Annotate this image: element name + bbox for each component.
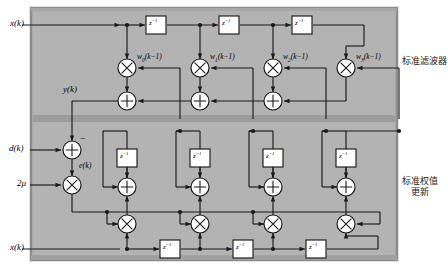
section-label-weight-update: 标准权值 更新 (402, 176, 438, 198)
section-label-weight-update-line1: 标准权值 (402, 176, 438, 187)
label-d: d(k) (9, 144, 24, 153)
delay-glyph-top-0: z−1 (149, 19, 157, 27)
section-label-weight-update-line2: 更新 (402, 187, 438, 198)
weight-label-3-text: w3(k−1) (356, 52, 381, 61)
block-diagram-svg (0, 0, 448, 275)
delay-glyph-bot-0: z−1 (163, 243, 171, 251)
delay-glyph-bot-2: z−1 (309, 243, 317, 251)
weight-label-1: w1(k−1) (210, 53, 235, 63)
weight-label-2-text: w2(k−1) (283, 52, 308, 61)
delay-glyph-w-2: z−1 (266, 152, 274, 160)
label-x-bottom: x(k) (10, 243, 24, 252)
delay-glyph-bot-1: z−1 (236, 243, 244, 251)
label-y: y(k) (63, 85, 77, 94)
mu-multiplier-node (63, 176, 81, 194)
minus-sign: − (80, 134, 86, 144)
weight-label-2: w2(k−1) (283, 53, 308, 63)
label-x-top: x(k) (10, 19, 24, 28)
delay-glyph-top-2: z−1 (295, 19, 303, 27)
weight-label-0: w0(k−1) (137, 53, 162, 63)
error-summer-node (63, 141, 81, 159)
section-divider (33, 115, 395, 122)
weight-label-1-text: w1(k−1) (210, 52, 235, 61)
weight-label-3: w3(k−1) (356, 53, 381, 63)
delay-glyph-w-3: z−1 (339, 152, 347, 160)
delay-glyph-w-0: z−1 (120, 152, 128, 160)
delay-glyph-top-1: z−1 (222, 19, 230, 27)
label-e: e(k) (79, 162, 91, 170)
delay-glyph-w-1: z−1 (193, 152, 201, 160)
figure-root: x(k) x(k) y(k) d(k) e(k) 2μ − w0(k−1) w1… (0, 0, 448, 275)
weight-label-0-text: w0(k−1) (137, 52, 162, 61)
section-label-filter: 标准滤波器 (402, 56, 447, 67)
label-2mu: 2μ (17, 179, 26, 188)
